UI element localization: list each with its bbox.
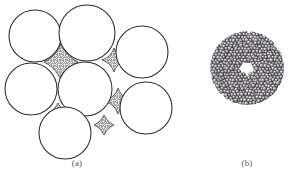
fine-particle [249, 101, 253, 105]
fine-particle [243, 58, 247, 62]
panel-b-caption: (b) [241, 158, 252, 168]
fine-particle [244, 101, 249, 106]
coarse-particle [120, 82, 172, 134]
fine-particle [230, 99, 235, 104]
panel-a-caption: (a) [72, 158, 83, 168]
coarse-particle [59, 5, 115, 61]
particle-packing-figure: (a) (b) [0, 0, 300, 179]
fine-particle [225, 96, 229, 100]
figure-root: (a) (b) [0, 0, 300, 179]
coarse-particle [39, 107, 91, 159]
coarse-particle [9, 10, 61, 62]
coarse-particle [5, 63, 57, 115]
coarse-particle [116, 26, 168, 78]
fine-particle [219, 89, 223, 93]
fine-particle [257, 99, 262, 104]
fine-particle [246, 81, 250, 85]
